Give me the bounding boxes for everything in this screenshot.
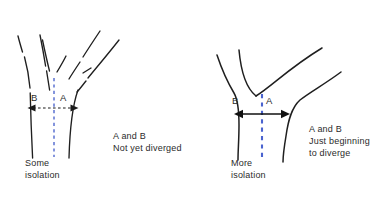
left-upper-right-branch-seg1 bbox=[83, 31, 100, 57]
right-panel-label-a: A bbox=[266, 95, 273, 108]
left-main-right-trunk bbox=[69, 90, 78, 158]
left-outer-left-branch-seg1 bbox=[18, 36, 23, 52]
left-panel-label-a: A bbox=[60, 92, 67, 105]
right-u-left-arm bbox=[239, 50, 256, 96]
figure-canvas: B A Some isolation A and B Not yet diver… bbox=[0, 0, 383, 199]
left-width-arrow bbox=[28, 105, 79, 112]
right-panel-note: A and B Just beginning to diverge bbox=[309, 124, 370, 160]
right-u-right-arm bbox=[256, 48, 322, 96]
right-panel-label-b: B bbox=[232, 95, 239, 108]
left-inner-left-branch-seg2 bbox=[47, 71, 50, 90]
left-arrowhead-left bbox=[28, 105, 36, 112]
left-mid-right-branch-seg1 bbox=[57, 56, 66, 72]
left-panel-caption: Some isolation bbox=[25, 158, 60, 182]
right-arrowhead-right bbox=[281, 110, 290, 118]
right-panel-caption: More isolation bbox=[231, 158, 266, 182]
left-panel-label-b: B bbox=[31, 92, 38, 105]
left-outer-left-branch-seg2 bbox=[25, 57, 31, 88]
left-panel-note: A and B Not yet diverged bbox=[113, 131, 182, 155]
left-upper-right-branch-seg2 bbox=[69, 62, 80, 79]
left-fork-dash bbox=[83, 68, 91, 73]
left-mid-right-branch-seg2 bbox=[88, 40, 119, 78]
